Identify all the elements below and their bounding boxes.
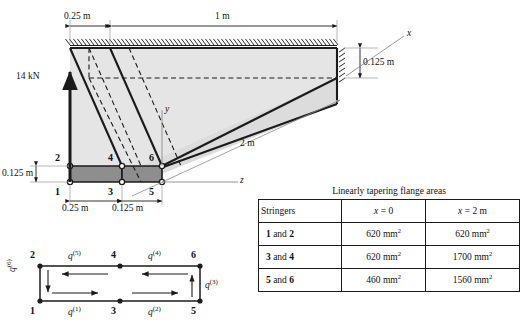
row2-x0-val: 460 mm	[366, 276, 397, 286]
row1-x0-val: 620 mm	[366, 253, 397, 263]
header-x2: x = 2 m	[426, 200, 520, 223]
shear-flow-frame	[40, 266, 200, 301]
sf-node-label-2: 2	[30, 250, 35, 260]
row0-x2-val: 620 mm	[455, 230, 486, 240]
header-x0: x = 0	[342, 200, 426, 223]
header-x2-val: = 2 m	[462, 206, 487, 216]
row0-x0: 620 mm2	[342, 223, 426, 246]
row0-x2: 620 mm2	[426, 223, 520, 246]
row0-stringer-b: 2	[289, 229, 294, 239]
q6-label: q(6)	[6, 259, 18, 272]
row2-stringer-mid: and	[271, 275, 289, 285]
table-row: 1 and 2 620 mm2 620 mm2	[259, 223, 520, 246]
row1-x2-sup: 2	[489, 250, 492, 257]
q1-label: q(1)	[68, 306, 81, 318]
row2-x2-sup: 2	[489, 273, 492, 280]
row2-x0-sup: 2	[398, 273, 401, 280]
header-stringers: Stringers	[259, 200, 342, 223]
row2-stringer-b: 6	[289, 275, 294, 285]
header-x0-val: = 0	[378, 206, 393, 216]
row1-x0: 620 mm2	[342, 246, 426, 269]
row1-stringer-mid: and	[271, 252, 289, 262]
row1-stringers: 3 and 4	[259, 246, 342, 269]
sf-node-label-1: 1	[30, 306, 35, 316]
q1-superscript: (1)	[73, 305, 81, 313]
q4-label: q(4)	[148, 250, 161, 262]
row0-stringers: 1 and 2	[259, 223, 342, 246]
q3-label: q(3)	[205, 279, 218, 291]
row1-x2-val: 1700 mm	[453, 253, 489, 263]
shear-flow-nodes	[37, 263, 202, 303]
q2-label: q(2)	[148, 306, 161, 318]
q4-superscript: (4)	[153, 249, 161, 257]
sf-node-label-4: 4	[111, 250, 116, 260]
sf-node-label-3: 3	[111, 306, 116, 316]
q6-superscript: (6)	[5, 259, 13, 267]
table-row: 5 and 6 460 mm2 1560 mm2	[259, 269, 520, 292]
table-row: 3 and 4 620 mm2 1700 mm2	[259, 246, 520, 269]
row1-x2: 1700 mm2	[426, 246, 520, 269]
flange-area-table-wrap: Linearly tapering flange areas Stringers…	[258, 186, 520, 292]
row2-stringers: 5 and 6	[259, 269, 342, 292]
table-title: Linearly tapering flange areas	[258, 186, 520, 196]
row2-x2: 1560 mm2	[426, 269, 520, 292]
row0-x0-val: 620 mm	[366, 230, 397, 240]
q2-superscript: (2)	[153, 305, 161, 313]
flow-arrows	[48, 270, 192, 297]
row0-x0-sup: 2	[398, 227, 401, 234]
sf-node-label-5: 5	[191, 306, 196, 316]
row1-stringer-b: 4	[289, 252, 294, 262]
row2-x2-val: 1560 mm	[453, 276, 489, 286]
row0-x2-sup: 2	[487, 227, 490, 234]
q6-symbol: q	[7, 267, 17, 272]
figure-root: 0.25 m 1 m 0.125 m 0.125 m 2 m 0.25 m 0.…	[0, 0, 527, 325]
sf-node-label-6: 6	[191, 250, 196, 260]
q5-label: q(5)	[68, 250, 81, 262]
row2-x0: 460 mm2	[342, 269, 426, 292]
row1-x0-sup: 2	[398, 250, 401, 257]
q3-superscript: (3)	[210, 278, 218, 286]
q5-superscript: (5)	[73, 249, 81, 257]
table-header-row: Stringers x = 0 x = 2 m	[259, 200, 520, 223]
row0-stringer-mid: and	[271, 229, 289, 239]
flange-area-table: Stringers x = 0 x = 2 m 1 and 2 620 mm2 …	[258, 199, 520, 292]
